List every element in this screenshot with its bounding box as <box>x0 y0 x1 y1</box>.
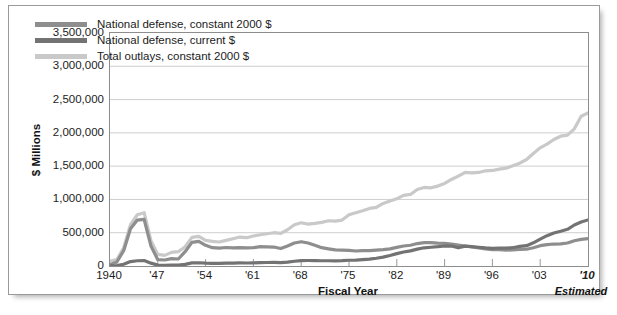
legend-swatch-total-outlays-constant <box>35 54 87 59</box>
legend-label: National defense, current $ <box>97 34 235 46</box>
y-axis-ticks: 3,500,0003,000,0002,500,0002,000,0001,50… <box>9 32 104 265</box>
x-tick-label: '75 <box>341 269 356 282</box>
y-tick-label: 2,500,000 <box>12 93 104 105</box>
y-tick-label: 0 <box>12 259 104 271</box>
series-line <box>110 113 588 261</box>
plot-area <box>109 32 589 267</box>
legend-item: National defense, constant 2000 $ <box>35 16 335 32</box>
y-tick-label: 1,500,000 <box>12 159 104 171</box>
x-tick-label: '68 <box>293 269 308 282</box>
chart-figure: 3,500,0003,000,0002,500,0002,000,0001,50… <box>0 0 617 315</box>
x-tick-label: '82 <box>388 269 403 282</box>
x-tick-label: '03 <box>532 269 547 282</box>
x-tick-label: '96 <box>484 269 499 282</box>
estimated-annotation: Estimated <box>555 285 608 297</box>
y-tick-label: 500,000 <box>12 226 104 238</box>
x-tick-label: '61 <box>245 269 260 282</box>
x-tick-label: '47 <box>149 269 164 282</box>
legend-item: Total outlays, constant 2000 $ <box>35 48 335 64</box>
chart-legend: National defense, constant 2000 $ Nation… <box>35 16 335 64</box>
y-tick-label: 2,000,000 <box>12 126 104 138</box>
x-tick-label: '10 <box>579 269 595 282</box>
x-axis-ticks: 1940'47'54'61'68'75'82'89'96'03'10 <box>109 269 587 285</box>
legend-swatch-national-defense-constant <box>35 22 87 27</box>
x-tick-label: '54 <box>197 269 212 282</box>
plot-canvas <box>110 33 588 266</box>
legend-item: National defense, current $ <box>35 32 335 48</box>
x-axis-label: Fiscal Year <box>109 285 587 297</box>
chart-frame: 3,500,0003,000,0002,500,0002,000,0001,50… <box>8 5 600 295</box>
legend-label: National defense, constant 2000 $ <box>97 18 272 30</box>
x-tick-label: 1940 <box>96 269 122 282</box>
x-tick-label: '89 <box>436 269 451 282</box>
series-line <box>110 219 588 264</box>
y-tick-label: 1,000,000 <box>12 192 104 204</box>
legend-label: Total outlays, constant 2000 $ <box>97 50 249 62</box>
series-line <box>110 220 588 266</box>
y-axis-label: $ Millions <box>30 110 42 190</box>
legend-swatch-national-defense-current <box>35 38 87 43</box>
